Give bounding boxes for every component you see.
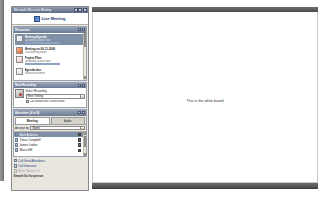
upload-progress-bar: [25, 63, 61, 65]
attendees-scrollbar[interactable]: [83, 132, 86, 156]
resources-panel: Resources Meeting Agenda Uploading, plea…: [13, 26, 87, 81]
attendees-panel-title: Attendees (4 of 4): [15, 111, 77, 115]
whiteboard-text: This is the white board: [186, 99, 223, 103]
resource-subtitle: Shared document: [25, 72, 85, 75]
attendee-status-badge: [78, 133, 81, 136]
stage-bottom-rail: [92, 183, 318, 189]
scrollbar-thumb[interactable]: [84, 136, 86, 147]
resource-subtitle: Last Meeting Notes: [25, 51, 85, 54]
scrollbar-thumb[interactable]: [84, 36, 86, 47]
checkbox-box[interactable]: [26, 100, 29, 103]
powerpoint-icon: [16, 47, 23, 54]
maximize-button[interactable]: [78, 8, 82, 12]
arrange-by-value: Name: [31, 126, 80, 130]
attendee-status-badge: [78, 138, 81, 141]
list-item[interactable]: Agenda.doc Shared document: [15, 67, 85, 76]
minimize-button[interactable]: [74, 8, 78, 12]
upload-progress-bar: [25, 42, 61, 44]
arrange-by-label: Arrange by:: [15, 126, 29, 130]
recording-name-input[interactable]: New Testing: [26, 94, 86, 99]
scroll-down-arrow-icon[interactable]: [84, 76, 86, 79]
brand-banner: Live Meeting: [12, 13, 88, 25]
table-row[interactable]: Mark Andrews: [14, 132, 86, 137]
close-button[interactable]: [83, 8, 87, 12]
new-recording-collapse-button[interactable]: [78, 84, 81, 87]
call-rooted-checkbox[interactable]: Call rooted over current dialin: [26, 100, 86, 103]
attendee-name: Trevor Campbell: [19, 138, 77, 142]
action-label: Call Send Attendees...: [18, 159, 47, 163]
document-icon: [16, 35, 23, 42]
attendees-arrange-row: Arrange by: Name: [14, 124, 86, 132]
resources-scrollbar[interactable]: [83, 33, 86, 80]
scroll-down-arrow-icon[interactable]: [84, 153, 86, 156]
whiteboard-canvas[interactable]: This is the white board: [92, 12, 318, 183]
attendees-tabs: Meeting Audio: [14, 116, 86, 124]
tab-meeting[interactable]: Meeting: [15, 117, 50, 124]
action-label: Call Someone: [18, 164, 36, 168]
list-item[interactable]: Project Plan Uploading, please wait: [15, 55, 85, 67]
attendee-icon: [15, 148, 18, 152]
list-item[interactable]: Meeting Agenda Uploading, please wait: [15, 34, 85, 46]
attendees-collapse-button[interactable]: [78, 111, 81, 114]
search-list-legend: Search list for person: [14, 174, 87, 178]
resources-panel-title: Resources: [15, 28, 77, 32]
checkbox-label: Call rooted over current dialin: [30, 100, 65, 103]
attendees-close-button[interactable]: [82, 111, 85, 114]
new-recording-body: Select Recording New Testing Call rooted…: [14, 88, 86, 107]
new-recording-close-button[interactable]: [82, 84, 85, 87]
chevron-down-icon[interactable]: [80, 95, 84, 98]
resources-panel-collapse-button[interactable]: [78, 28, 81, 31]
table-row[interactable]: James Linden: [14, 142, 86, 147]
list-item[interactable]: Meeting on 06-11-2006 Last Meeting Notes: [15, 45, 85, 54]
invite-attendees-action[interactable]: Call Send Attendees...: [14, 159, 87, 163]
attendee-name: James Linden: [19, 143, 77, 147]
attendees-list[interactable]: Mark Andrews Trevor Campbell James Linde…: [14, 131, 86, 156]
arrange-by-select[interactable]: Name: [30, 126, 85, 131]
attendee-name: Mark Andrews: [19, 133, 77, 137]
resources-list[interactable]: Meeting Agenda Uploading, please wait Me…: [14, 33, 86, 80]
attendee-icon: [15, 143, 18, 147]
attendee-icon: [15, 138, 18, 142]
live-meeting-logo-icon: [34, 16, 40, 22]
stage-left-edge: [0, 0, 4, 181]
phone-icon: [14, 164, 18, 168]
pdf-icon: [16, 56, 23, 63]
tab-audio[interactable]: Audio: [51, 117, 86, 124]
attendee-status-badge: [78, 149, 81, 152]
attendees-panel-header[interactable]: Attendees (4 of 4): [14, 110, 86, 116]
attendee-name: Marco Hill: [19, 148, 77, 152]
attendees-panel: Attendees (4 of 4) Meeting Audio Arrange…: [13, 109, 87, 157]
chevron-down-icon[interactable]: [80, 127, 84, 130]
record-icon[interactable]: [15, 89, 24, 98]
attendee-status-badge: [78, 143, 81, 146]
whiteboard-icon: [16, 68, 23, 75]
recording-name-value: New Testing: [27, 94, 81, 98]
brand-name: Live Meeting: [41, 16, 65, 21]
table-row[interactable]: Marco Hill: [14, 148, 86, 153]
attendee-icon: [15, 133, 18, 137]
action-label: More Options >>: [18, 169, 40, 173]
more-options-action[interactable]: More Options >>: [14, 169, 87, 173]
table-row[interactable]: Trevor Campbell: [14, 137, 86, 142]
new-recording-panel: New Recording Select Recording New Testi…: [13, 82, 87, 109]
live-meeting-console-window: Microsoft Office Live Meeting Live Meeti…: [11, 6, 89, 191]
call-someone-action[interactable]: Call Someone: [14, 164, 87, 168]
window-title: Microsoft Office Live Meeting: [13, 8, 73, 12]
attendee-actions: Call Send Attendees... Call Someone More…: [12, 157, 88, 178]
recording-field-label: Select Recording: [26, 89, 86, 93]
options-icon: [14, 169, 18, 173]
resources-panel-close-button[interactable]: [82, 28, 85, 31]
invite-icon: [14, 159, 18, 163]
new-recording-panel-title: New Recording: [15, 83, 77, 87]
